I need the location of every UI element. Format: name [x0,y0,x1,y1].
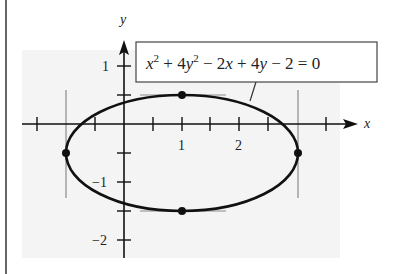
vertex-top [178,91,186,99]
y-tick-label-neg1: −1 [92,175,107,190]
vertex-left [62,149,70,157]
y-tick-label-1: 1 [102,59,109,74]
x-tick-label-1: 1 [178,138,185,153]
y-tick-label-neg2: −2 [92,233,107,248]
equation-label: x2 + 4y2 − 2x + 4y − 2 = 0 [145,52,320,73]
y-axis-label: y [118,12,127,27]
vertex-right [294,149,302,157]
x-axis-label: x [363,116,371,131]
ellipse-diagram: x y 1 2 1 −1 −2 x2 + 4y2 − 2x + 4y − 2 =… [0,0,394,274]
vertex-bottom [178,207,186,215]
x-tick-label-2: 2 [235,138,242,153]
